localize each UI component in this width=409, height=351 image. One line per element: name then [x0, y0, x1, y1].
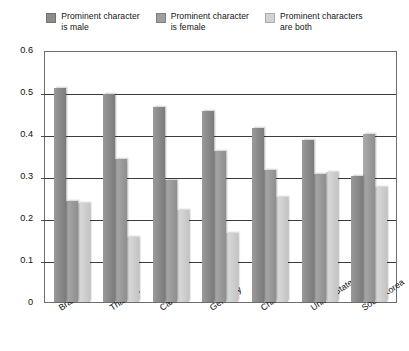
bar-group	[302, 52, 338, 302]
bar	[127, 237, 139, 302]
legend-swatch-icon	[265, 13, 275, 23]
bar	[66, 201, 78, 302]
legend-item-label: Prominent charactersare both	[280, 11, 363, 32]
chart-legend: Prominent characteris maleProminent char…	[0, 11, 409, 32]
legend-item[interactable]: Prominent characteris female	[156, 11, 249, 32]
y-axis-tick-label: 0.6	[20, 46, 33, 55]
bar-group	[351, 52, 387, 302]
y-axis-tick-label: 0.4	[20, 130, 33, 139]
bar	[276, 197, 288, 302]
x-axis: BrazilThailandCanadaGermanyChinaUnited S…	[44, 304, 397, 350]
legend-swatch-icon	[156, 13, 166, 23]
bar	[202, 111, 214, 302]
bar	[363, 134, 375, 302]
bar-group	[202, 52, 238, 302]
legend-item-label: Prominent characteris male	[61, 11, 139, 32]
legend-item-label: Prominent characteris female	[171, 11, 249, 32]
bar-group	[252, 52, 288, 302]
bar	[252, 128, 264, 302]
bar	[302, 140, 314, 302]
bar	[78, 203, 90, 302]
bar	[264, 170, 276, 302]
y-axis-tick-label: 0.5	[20, 88, 33, 97]
legend-swatch-icon	[46, 13, 56, 23]
bar	[103, 94, 115, 302]
y-axis: 00.10.20.30.40.50.6	[0, 51, 40, 303]
bar-group	[54, 52, 90, 302]
bar	[226, 233, 238, 302]
bar	[351, 176, 363, 302]
bar-groups	[45, 52, 396, 302]
bar-group	[153, 52, 189, 302]
y-axis-tick-label: 0.1	[20, 256, 33, 265]
bar	[153, 107, 165, 302]
bar	[326, 172, 338, 302]
y-axis-tick-label: 0	[28, 298, 33, 307]
plot-area	[44, 51, 397, 303]
bar	[177, 210, 189, 302]
bar	[54, 88, 66, 302]
bar	[165, 180, 177, 302]
legend-item[interactable]: Prominent characteris male	[46, 11, 139, 32]
bar	[375, 187, 387, 303]
legend-item[interactable]: Prominent charactersare both	[265, 11, 363, 32]
bar	[314, 174, 326, 302]
y-axis-tick-label: 0.3	[20, 172, 33, 181]
y-axis-tick-label: 0.2	[20, 214, 33, 223]
bar-group	[103, 52, 139, 302]
bar	[214, 151, 226, 302]
bar	[115, 159, 127, 302]
